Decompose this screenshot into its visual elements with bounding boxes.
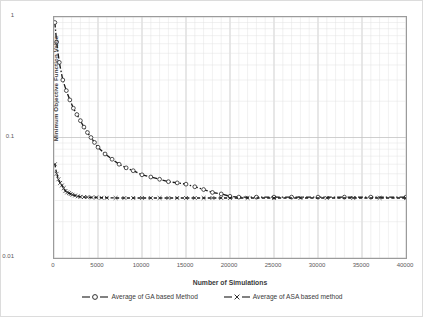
y-tick-label: 0.1: [0, 133, 14, 139]
y-tick-label: 1: [0, 12, 14, 18]
chart-figure: Minimum Objective Function Value Number …: [0, 0, 423, 317]
x-tick-label: 10000: [119, 262, 163, 268]
y-tick-label: 0.01: [0, 253, 14, 259]
plot-area: [53, 16, 407, 259]
x-tick-label: 15000: [163, 262, 207, 268]
series-layer: [54, 17, 406, 258]
legend-entry-ga: Average of GA based Method: [82, 293, 197, 301]
x-tick-label: 20000: [207, 262, 251, 268]
x-tick-label: 30000: [295, 262, 339, 268]
y-axis-title: Minimum Objective Function Value: [52, 9, 59, 169]
x-tick-label: 35000: [339, 262, 383, 268]
legend-marker-x-cross-icon: [224, 293, 250, 301]
x-axis-title: Number of Simulations: [53, 279, 407, 286]
x-tick-label: 40000: [383, 262, 423, 268]
legend-marker-circle-open-icon: [82, 293, 108, 301]
x-tick-label: 25000: [251, 262, 295, 268]
x-tick-label: 5000: [75, 262, 119, 268]
x-tick-label: 0: [31, 262, 75, 268]
chart-legend: Average of GA based Method Average of AS…: [1, 293, 423, 301]
legend-entry-asa: Average of ASA based method: [224, 293, 343, 301]
legend-label-ga: Average of GA based Method: [111, 294, 197, 301]
legend-label-asa: Average of ASA based method: [253, 294, 343, 301]
